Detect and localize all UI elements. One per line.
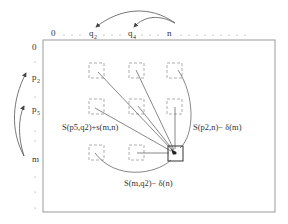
cell-m-q2 — [89, 145, 104, 160]
arrow-n-to-q2 — [96, 11, 175, 27]
cell-p5-q4 — [129, 99, 144, 114]
diagram-canvas: 0 q 2 q 4 n 0 p 2 p 5 m — [0, 0, 288, 224]
left-expression: S(p5,q2)+s(m,n) — [62, 122, 118, 132]
cell-p2-n — [167, 63, 182, 78]
top-label-q2-sub: 2 — [94, 34, 97, 40]
right-expression: S(p2,n)− δ(m) — [193, 122, 242, 132]
top-label-0: 0 — [51, 28, 56, 38]
target-point — [173, 151, 176, 154]
left-label-p2-sub: 2 — [37, 78, 40, 84]
arrow-m-to-p2 — [14, 73, 26, 156]
left-label-p5-sub: 5 — [37, 110, 40, 116]
bottom-expression: S(m,q2)− δ(n) — [124, 178, 173, 188]
left-label-0: 0 — [32, 42, 37, 52]
left-axis-dots — [34, 61, 35, 208]
left-label-m: m — [32, 154, 39, 164]
top-label-n: n — [167, 28, 172, 38]
top-label-q4-sub: 4 — [133, 34, 136, 40]
cell-p5-n — [167, 99, 182, 114]
cell-m-q4 — [129, 145, 144, 160]
